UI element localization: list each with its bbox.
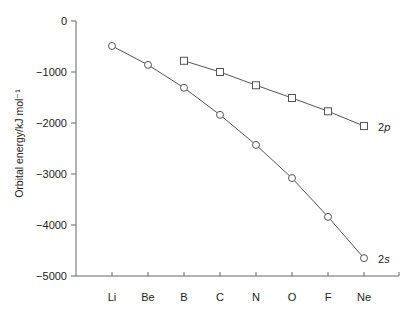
x-tick-label: Ne: [357, 291, 371, 303]
square-marker: [361, 123, 368, 130]
x-tick-label: Be: [141, 291, 154, 303]
square-marker: [181, 57, 188, 64]
y-tick-label: −4000: [36, 219, 67, 231]
square-marker: [289, 95, 296, 102]
circle-marker: [253, 141, 260, 148]
y-tick-label: −5000: [36, 270, 67, 282]
x-axis: LiBeBCNOFNe: [76, 272, 399, 303]
orbital-energy-chart: 0−1000−2000−3000−4000−5000Orbital energy…: [0, 0, 414, 321]
circle-marker: [325, 213, 332, 220]
circle-marker: [145, 61, 152, 68]
y-axis-title: Orbital energy/kJ mol⁻¹: [13, 89, 25, 198]
series-label-2s: 2s: [378, 253, 390, 265]
series-label-2p: 2p: [378, 121, 390, 133]
square-marker: [253, 82, 260, 89]
y-tick-label: −1000: [36, 66, 67, 78]
y-tick-label: 0: [61, 15, 67, 27]
x-tick-label: F: [325, 291, 332, 303]
y-axis: 0−1000−2000−3000−4000−5000Orbital energy…: [13, 15, 76, 282]
circle-marker: [217, 111, 224, 118]
square-marker: [325, 108, 332, 115]
x-tick-label: Li: [108, 291, 117, 303]
circle-marker: [109, 42, 116, 49]
y-tick-label: −3000: [36, 168, 67, 180]
x-tick-label: C: [216, 291, 224, 303]
x-tick-label: B: [180, 291, 187, 303]
x-tick-label: O: [288, 291, 297, 303]
series-2p: 2p: [181, 57, 391, 133]
y-tick-label: −2000: [36, 117, 67, 129]
circle-marker: [361, 255, 368, 262]
circle-marker: [181, 84, 188, 91]
circle-marker: [289, 175, 296, 182]
x-tick-label: N: [252, 291, 260, 303]
square-marker: [217, 69, 224, 76]
series-2s: 2s: [109, 42, 391, 265]
